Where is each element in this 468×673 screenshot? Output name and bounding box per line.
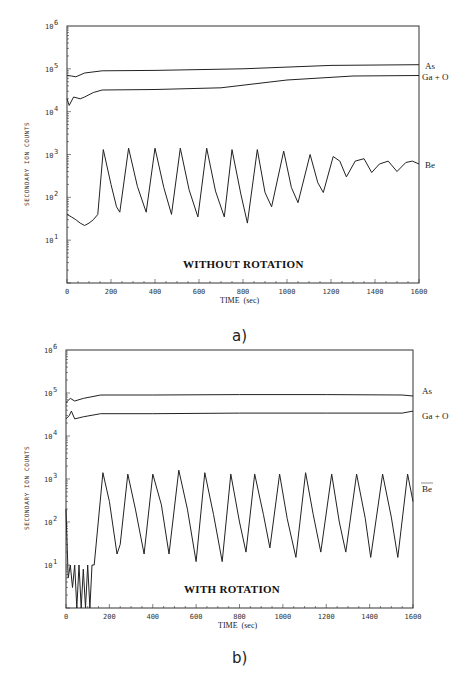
panel-a-label-be: Be <box>425 160 435 170</box>
series-as-curve <box>66 395 413 403</box>
y-tick-exponent: 1 <box>53 558 57 566</box>
x-tick-label: 1000 <box>279 288 296 296</box>
y-tick-label: 10 <box>45 109 53 117</box>
y-tick-label: 10 <box>45 66 53 74</box>
y-tick-exponent: 2 <box>54 190 58 198</box>
panel-b-x-axis-label: TIME (sec) <box>218 621 257 630</box>
panel-b-label-as: As <box>422 386 432 396</box>
y-tick-label: 10 <box>45 237 53 245</box>
sims-depth-profile-figure: 106105104103102101 020040060080010001200… <box>0 0 468 673</box>
panel-a-curves <box>67 65 419 226</box>
y-tick-label: 10 <box>44 476 52 484</box>
x-tick-label: 1200 <box>323 288 340 296</box>
x-tick-label: 1600 <box>411 288 428 296</box>
x-tick-label: 800 <box>233 613 246 621</box>
panel-b-caption: b) <box>232 649 247 667</box>
y-tick-exponent: 3 <box>54 148 58 156</box>
series-be-curve <box>67 148 419 225</box>
y-tick-exponent: 5 <box>54 62 58 70</box>
x-tick-label: 200 <box>105 288 118 296</box>
x-tick-label: 1200 <box>318 613 335 621</box>
panel-b-curves <box>66 395 413 608</box>
panel-b-x-axis: 02004006008001000120014001600 <box>64 604 422 621</box>
x-tick-label: 0 <box>65 288 69 296</box>
panel-a-y-axis-label: SECONDARY ION COUNTS <box>23 122 30 206</box>
x-tick-label: 400 <box>149 288 162 296</box>
x-tick-label: 1000 <box>274 613 291 621</box>
panel-a-caption: a) <box>232 327 247 345</box>
x-tick-label: 200 <box>103 613 116 621</box>
panel-b-plot-frame <box>66 350 413 608</box>
panel-a-plot-frame <box>67 26 419 283</box>
y-tick-exponent: 1 <box>54 233 58 241</box>
x-tick-label: 1400 <box>367 288 384 296</box>
y-tick-label: 10 <box>44 433 52 441</box>
y-tick-label: 10 <box>44 562 52 570</box>
panel-b-label-ga-o: Ga + O <box>422 411 449 421</box>
x-tick-label: 0 <box>64 613 68 621</box>
y-tick-exponent: 4 <box>53 429 57 437</box>
y-tick-label: 10 <box>45 23 53 31</box>
x-tick-label: 600 <box>190 613 203 621</box>
panel-a-label-ga-o: Ga + O <box>422 72 449 82</box>
y-tick-exponent: 4 <box>54 105 58 113</box>
y-tick-exponent: 2 <box>53 515 57 523</box>
x-tick-label: 1400 <box>361 613 378 621</box>
panel-a-chart: 106105104103102101 020040060080010001200… <box>23 19 449 345</box>
panel-a-x-axis-label: TIME (sec) <box>220 296 259 305</box>
y-tick-label: 10 <box>44 390 52 398</box>
panel-a-x-axis: 02004006008001000120014001600 <box>65 279 428 296</box>
y-tick-exponent: 5 <box>53 386 57 394</box>
y-tick-exponent: 3 <box>53 472 57 480</box>
x-tick-label: 600 <box>193 288 206 296</box>
panel-b-chart: 106105104103102101 020040060080010001200… <box>23 343 449 667</box>
panel-b-label-be: Be <box>422 484 432 494</box>
series-as-curve <box>67 65 419 77</box>
y-tick-exponent: 6 <box>54 19 58 27</box>
x-tick-label: 800 <box>237 288 250 296</box>
series-ga-o-curve <box>66 411 413 419</box>
x-tick-label: 400 <box>146 613 159 621</box>
y-tick-label: 10 <box>45 152 53 160</box>
panel-a-title: WITHOUT ROTATION <box>183 258 304 270</box>
panel-b-title: WITH ROTATION <box>184 583 280 595</box>
panel-b-y-axis-label: SECONDARY ION COUNTS <box>23 446 30 530</box>
y-tick-label: 10 <box>44 347 52 355</box>
series-ga-o-curve <box>67 76 419 106</box>
y-tick-exponent: 6 <box>53 343 57 351</box>
y-tick-label: 10 <box>44 519 52 527</box>
panel-a-label-as: As <box>425 61 435 71</box>
y-tick-label: 10 <box>45 194 53 202</box>
x-tick-label: 1600 <box>405 613 422 621</box>
